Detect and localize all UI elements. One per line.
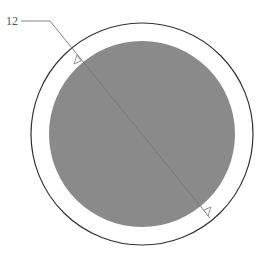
circle-diagram [0, 0, 269, 258]
arrow-top-icon [74, 55, 81, 64]
reference-label: 12 [6, 15, 18, 27]
arrow-bottom-icon [204, 207, 211, 216]
